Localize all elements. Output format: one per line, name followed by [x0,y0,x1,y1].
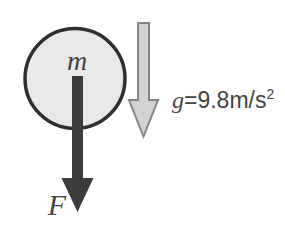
gravity-value: =9.8m/s [184,87,266,113]
gravity-arrow [129,23,158,137]
physics-diagram: m F g=9.8m/s2 [0,0,285,226]
gravity-symbol: g [172,87,184,113]
diagram-canvas: m F g=9.8m/s2 [0,0,285,226]
force-label: F [47,188,67,221]
gravity-exponent: 2 [266,86,274,102]
gravity-label: g=9.8m/s2 [172,86,274,113]
mass-label: m [67,45,87,76]
